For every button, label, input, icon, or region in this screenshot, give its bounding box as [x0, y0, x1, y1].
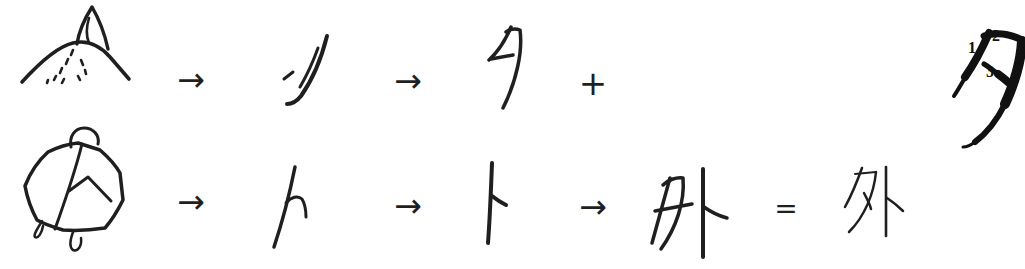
character-result-outside [845, 167, 903, 236]
character-combined-outside [652, 169, 727, 257]
arrow-icon: → [394, 64, 422, 97]
stroke-number-1: 1 [968, 40, 976, 56]
kanji-etymology-diagram: → → + → → → = 1 2 3 [0, 0, 1025, 269]
arrow-icon: → [579, 190, 607, 223]
turtle-shell-pictograph-icon [25, 128, 123, 250]
equals-sign: = [774, 195, 797, 223]
character-moon-radical [489, 27, 521, 108]
etymology-drawings [0, 0, 1025, 269]
arrow-icon: → [394, 189, 422, 222]
arrow-icon: → [177, 185, 205, 218]
arrow-icon: → [177, 63, 205, 96]
divination-crack-glyph-icon [274, 167, 306, 247]
stroke-order-diagram-glyph [954, 33, 1022, 147]
stroke-number-2: 2 [992, 28, 1000, 44]
moon-over-hill-pictograph-icon [22, 7, 129, 83]
stroke-number-3: 3 [986, 64, 994, 80]
oracle-crescent-glyph-icon [284, 36, 327, 104]
plus-sign: + [579, 66, 608, 100]
character-divination-radical [488, 163, 506, 243]
